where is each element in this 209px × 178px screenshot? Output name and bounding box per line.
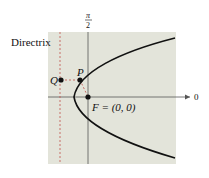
pi-denominator-label: 2 — [86, 21, 90, 30]
parabola-diagram: Directrix π 2 0 Q P F = (0, 0) — [0, 0, 209, 178]
point-p — [77, 77, 82, 82]
directrix-label: Directrix — [11, 36, 51, 48]
arrow-icon — [185, 95, 190, 100]
p-label: P — [76, 66, 84, 78]
q-label: Q — [50, 74, 58, 86]
f-label: F = (0, 0) — [91, 101, 136, 114]
zero-angle-label: 0 — [194, 92, 199, 102]
pi-numerator-label: π — [86, 11, 91, 20]
plot-panel — [48, 32, 176, 164]
point-q — [58, 77, 63, 82]
point-f — [85, 94, 90, 99]
